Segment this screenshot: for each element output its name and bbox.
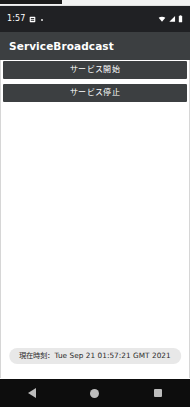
- triangle-back-icon: [28, 388, 36, 398]
- main-content-area: サービス開始 サービス停止 現在時刻：Tue Sep 21 01:57:21 G…: [0, 60, 190, 378]
- square-recents-icon: [154, 389, 162, 397]
- android-device-screen: 1:57: [0, 0, 190, 407]
- app-bar: ServiceBroadcast: [0, 32, 190, 60]
- nav-back-button[interactable]: [14, 379, 50, 407]
- status-bar-right-group: [158, 15, 183, 23]
- status-bar-clock: 1:57: [7, 15, 25, 23]
- nav-home-button[interactable]: [77, 379, 113, 407]
- toast-message: 現在時刻：Tue Sep 21 01:57:21 GMT 2021: [9, 348, 181, 364]
- circle-home-icon: [90, 389, 99, 398]
- app-title: ServiceBroadcast: [9, 40, 114, 52]
- capture-top-strip-dark-segment: [0, 0, 62, 4]
- status-bar: 1:57: [0, 6, 190, 32]
- android-navigation-bar: [0, 378, 190, 407]
- cellular-signal-icon: [168, 15, 176, 23]
- wifi-icon: [158, 15, 166, 23]
- status-bar-left-group: 1:57: [7, 15, 44, 23]
- sim-card-icon: [29, 16, 36, 23]
- dot-icon: [40, 17, 44, 22]
- stop-service-button[interactable]: サービス停止: [3, 84, 187, 102]
- service-button-stack: サービス開始 サービス停止: [3, 61, 187, 107]
- battery-icon: [178, 15, 183, 23]
- nav-recents-button[interactable]: [140, 379, 176, 407]
- start-service-button[interactable]: サービス開始: [3, 61, 187, 79]
